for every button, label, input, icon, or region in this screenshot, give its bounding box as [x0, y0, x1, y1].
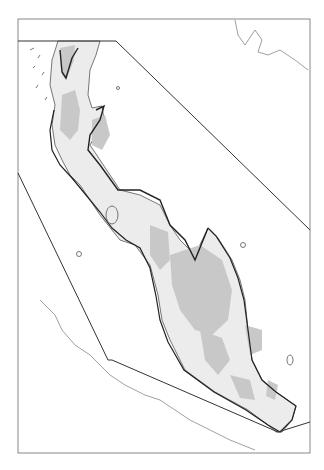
- map-canvas: [0, 0, 324, 470]
